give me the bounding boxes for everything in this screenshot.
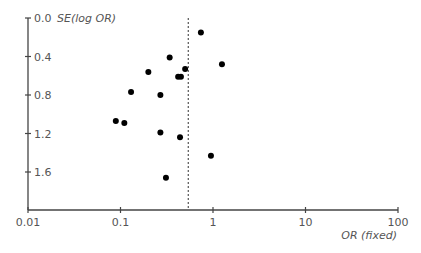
y-axis-title: SE(log OR): [57, 12, 116, 25]
study-point: [177, 134, 183, 140]
funnel-plot: 0.00.40.81.21.60.010.1110100 SE(log OR) …: [0, 0, 421, 253]
study-point: [208, 153, 214, 159]
data-points: [113, 29, 225, 180]
x-tick-label: 100: [388, 216, 409, 229]
x-tick-label: 1: [210, 216, 217, 229]
x-tick-label: 0.01: [16, 216, 41, 229]
y-tick-label: 1.2: [34, 128, 52, 141]
study-point: [167, 54, 173, 60]
y-tick-label: 0.8: [34, 89, 52, 102]
study-point: [113, 118, 119, 124]
axes: 0.00.40.81.21.60.010.1110100: [16, 12, 409, 229]
x-axis-title: OR (fixed): [341, 229, 397, 242]
study-point: [121, 120, 127, 126]
study-point: [219, 61, 225, 67]
y-tick-label: 0.4: [34, 51, 52, 64]
study-point: [157, 130, 163, 136]
study-point: [163, 175, 169, 181]
x-tick-label: 0.1: [112, 216, 130, 229]
study-point: [128, 89, 134, 95]
study-point: [145, 69, 151, 75]
study-point: [178, 74, 184, 80]
y-tick-label: 1.6: [34, 166, 52, 179]
y-tick-label: 0.0: [34, 12, 52, 25]
x-tick-label: 10: [299, 216, 313, 229]
study-point: [157, 92, 163, 98]
study-point: [182, 66, 188, 72]
study-point: [198, 29, 204, 35]
